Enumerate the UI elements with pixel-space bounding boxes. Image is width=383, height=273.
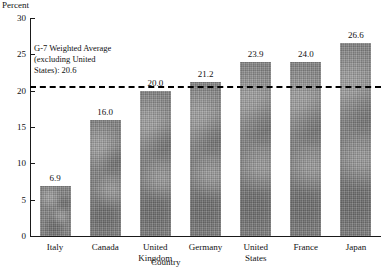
y-axis-tick — [31, 18, 35, 19]
bar-chart: Percent 051015202530 6.916.020.021.223.9… — [0, 0, 383, 273]
bar-value-label: 24.0 — [286, 50, 326, 59]
y-axis-tick-label: 15 — [4, 123, 26, 132]
bar — [140, 91, 171, 236]
bar-value-label: 6.9 — [35, 174, 75, 183]
reference-line — [30, 86, 381, 88]
y-axis-tick-label: 20 — [4, 87, 26, 96]
x-axis-category-label: Germany — [180, 242, 232, 253]
x-axis-category-label: Japan — [330, 242, 382, 253]
x-axis-category-label: UnitedStates — [230, 242, 282, 264]
x-axis-category-label-line: Germany — [180, 242, 232, 253]
x-axis-category-label-line: United — [230, 242, 282, 253]
x-axis-title: Country — [151, 257, 181, 267]
x-axis-line — [30, 236, 381, 237]
bar-value-label: 23.9 — [236, 50, 276, 59]
y-axis-tick-label: 30 — [4, 14, 26, 23]
y-axis-tick — [31, 200, 35, 201]
bar — [90, 120, 121, 236]
x-axis-category-label-line: France — [280, 242, 332, 253]
y-axis-tick — [31, 236, 35, 237]
x-axis-category-label: Italy — [29, 242, 81, 253]
y-axis-tick — [31, 91, 35, 92]
x-axis-category-label-line: Italy — [29, 242, 81, 253]
reference-line-annotation-line: G-7 Weighted Average — [34, 43, 164, 54]
y-axis-tick-label: 5 — [4, 196, 26, 205]
reference-line-annotation: G-7 Weighted Average(excluding UnitedSta… — [34, 43, 164, 76]
y-axis-tick — [31, 163, 35, 164]
bar — [190, 82, 221, 236]
reference-line-annotation-line: States): 20.6 — [34, 65, 164, 76]
bar-value-label: 16.0 — [85, 108, 125, 117]
bar — [240, 62, 271, 236]
x-axis-category-label-line: United — [129, 242, 181, 253]
bar — [40, 186, 71, 236]
bar-value-label: 26.6 — [336, 31, 376, 40]
y-axis-tick — [31, 127, 35, 128]
x-axis-category-label: Canada — [79, 242, 131, 253]
x-axis-category-label-line: Canada — [79, 242, 131, 253]
reference-line-annotation-line: (excluding United — [34, 54, 164, 65]
x-axis-category-label-line: States — [230, 253, 282, 264]
bar — [340, 43, 371, 236]
x-axis-category-label-line: Japan — [330, 242, 382, 253]
x-axis-category-label: France — [280, 242, 332, 253]
y-axis-tick-label: 25 — [4, 50, 26, 59]
y-axis-tick-label: 10 — [4, 159, 26, 168]
y-axis-title: Percent — [2, 0, 29, 10]
bar-value-label: 21.2 — [186, 70, 226, 79]
y-axis-tick-label: 0 — [4, 232, 26, 241]
